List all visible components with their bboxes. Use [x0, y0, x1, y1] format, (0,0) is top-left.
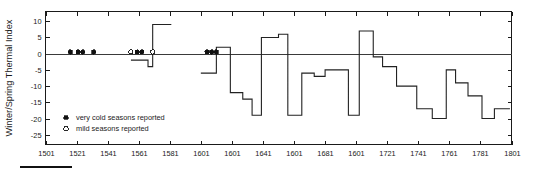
- x-tick-label: 1541: [100, 149, 116, 158]
- very-cold-season-marker: [140, 50, 144, 54]
- very-cold-season-marker: [68, 50, 72, 54]
- y-axis-title: Winter/Spring Thermal Index: [4, 19, 14, 136]
- very-cold-season-marker: [210, 50, 214, 54]
- x-axis: 1501152115411561158116011601164116011681…: [38, 141, 520, 158]
- very-cold-season-marker: [214, 50, 218, 54]
- x-tick-label: 1741: [410, 149, 426, 158]
- x-tick-label: 1781: [472, 149, 488, 158]
- x-tick-label: 1681: [317, 149, 333, 158]
- legend-filled-circle-icon: [64, 115, 68, 119]
- x-axis-top-ticks: [47, 12, 513, 16]
- chart-figure: 1050-5-10-15-20-25 150115211541156115811…: [0, 0, 548, 172]
- y-tick-label: -25: [31, 131, 42, 140]
- y-axis: 1050-5-10-15-20-25: [31, 17, 50, 140]
- y-tick-label: 10: [33, 17, 41, 26]
- x-tick-label: 1601: [224, 149, 240, 158]
- legend-label-mild: mild seasons reported: [76, 124, 149, 133]
- thermal-index-step-line: [131, 24, 510, 118]
- legend-label-very-cold: very cold seasons reported: [76, 113, 165, 122]
- y-tick-label: 0: [37, 50, 41, 59]
- very-cold-season-marker: [205, 50, 209, 54]
- very-cold-season-marker: [135, 50, 139, 54]
- x-tick-label: 1601: [193, 149, 209, 158]
- y-tick-label: -15: [31, 98, 42, 107]
- x-tick-label: 1801: [504, 149, 520, 158]
- thermal-index-chart: 1050-5-10-15-20-25 150115211541156115811…: [0, 0, 548, 172]
- x-tick-label: 1721: [379, 149, 395, 158]
- very-cold-season-marker: [76, 50, 80, 54]
- y-axis-right-ticks: [508, 22, 512, 136]
- x-tick-label: 1521: [69, 149, 85, 158]
- x-tick-label: 1601: [286, 149, 302, 158]
- mild-season-marker: [150, 50, 154, 54]
- y-tick-label: -10: [31, 82, 42, 91]
- legend: very cold seasons reported mild seasons …: [64, 113, 165, 133]
- x-tick-label: 1601: [348, 149, 364, 158]
- y-tick-label: -5: [35, 66, 42, 75]
- mild-season-marker: [129, 50, 133, 54]
- y-tick-label: -20: [31, 115, 42, 124]
- very-cold-season-marker: [81, 50, 85, 54]
- x-tick-label: 1501: [38, 149, 54, 158]
- very-cold-season-marker: [91, 50, 95, 54]
- y-tick-label: 5: [37, 33, 41, 42]
- x-tick-label: 1761: [441, 149, 457, 158]
- x-tick-label: 1561: [131, 149, 147, 158]
- very-cold-season-markers: [68, 50, 218, 54]
- x-tick-label: 1641: [255, 149, 271, 158]
- x-tick-label: 1581: [162, 149, 178, 158]
- legend-open-circle-icon: [64, 126, 68, 130]
